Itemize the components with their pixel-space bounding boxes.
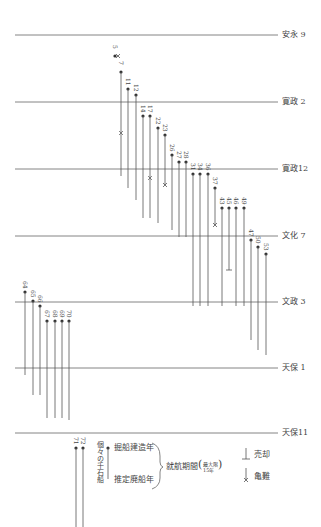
ship-number-label: 64 xyxy=(22,281,28,289)
ship-line-72 xyxy=(81,446,84,527)
era-label: 天保 1 xyxy=(282,363,306,373)
ship-number-label: 45 xyxy=(226,197,232,205)
ship-number-label: 43 xyxy=(219,197,225,205)
ship-timeline-diagram xyxy=(0,0,321,527)
ship-number-label: 31 xyxy=(190,163,196,171)
legend-period: 就航期間 xyxy=(166,462,198,472)
era-label: 文化 7 xyxy=(282,231,306,241)
ship-number-label: 22 xyxy=(155,117,161,125)
ship-number-label: 28 xyxy=(183,151,189,159)
ship-line-70 xyxy=(67,319,70,420)
ship-line-31 xyxy=(191,172,194,306)
ship-number-label: 46 xyxy=(233,197,239,205)
ship-line-36 xyxy=(206,172,209,306)
legend-build-year: 掘船建造年 xyxy=(114,443,154,453)
build-dot-icon xyxy=(113,54,116,57)
ship-line-50 xyxy=(256,245,259,350)
legend-max-line2: 15年 xyxy=(203,467,214,473)
ship-line-34 xyxy=(198,172,201,306)
ship-line-26 xyxy=(170,153,173,230)
ship-number-label: 53 xyxy=(263,243,269,251)
legend-scrap-year: 推定廃船年 xyxy=(114,475,154,485)
ship-line-67 xyxy=(45,319,48,418)
ship-number-label: 72 xyxy=(80,437,86,445)
legend-ship-label: 個々の千石船 xyxy=(96,441,104,483)
ship-number-label: 12 xyxy=(133,84,139,92)
ship-line-17 xyxy=(148,114,152,218)
ship-line-23 xyxy=(163,133,167,187)
era-lines xyxy=(15,35,278,433)
ship-line-68 xyxy=(53,319,56,418)
ship-number-label: 34 xyxy=(197,163,203,171)
ship-number-label: 11 xyxy=(125,78,131,86)
legend-paren-open: ( xyxy=(198,460,202,470)
ship-number-label: 65 xyxy=(30,290,36,298)
ship-number-label: 68 xyxy=(52,310,58,318)
legend-sold: 売却 xyxy=(254,450,270,460)
ship-line-37 xyxy=(213,186,217,227)
ship-line-69 xyxy=(60,319,63,418)
ship-number-label: 67 xyxy=(44,310,50,318)
ship-line-65 xyxy=(31,299,34,395)
ship-line-47 xyxy=(249,238,252,340)
ship-number-label: 37 xyxy=(212,177,218,185)
ship-number-label: 26 xyxy=(169,144,175,152)
ship-number-label: 23 xyxy=(162,124,168,132)
ship-line-27 xyxy=(177,160,180,237)
ship-line-22 xyxy=(156,126,159,223)
ship-lines xyxy=(23,54,267,527)
ship-number-label: 50 xyxy=(255,236,261,244)
ship-number-label: 71 xyxy=(73,437,79,445)
era-label: 寛政12 xyxy=(282,164,308,174)
ship-line-49 xyxy=(242,206,245,306)
ship-line-12 xyxy=(134,93,137,200)
ship-line-66 xyxy=(38,304,41,395)
ship-number-label: 69 xyxy=(59,310,65,318)
legend-wreck: 亀難 xyxy=(254,472,270,482)
ship-line-28 xyxy=(184,160,187,237)
ship-number-label: 66 xyxy=(37,295,43,303)
era-label: 文政 3 xyxy=(282,297,306,307)
ship-number-label: 14 xyxy=(140,105,146,113)
ship-number-label: 5 xyxy=(112,45,118,49)
legend-paren-close: ) xyxy=(218,460,222,470)
era-label: 安永 9 xyxy=(282,30,306,40)
ship-line-43 xyxy=(220,206,223,306)
ship-line-64 xyxy=(23,290,26,375)
ship-number-label: 36 xyxy=(205,163,211,171)
ship-line-14 xyxy=(141,114,144,218)
ship-number-label: 49 xyxy=(241,197,247,205)
ship-line-7 xyxy=(119,70,123,176)
ship-line-46 xyxy=(234,206,237,306)
ship-line-45 xyxy=(226,206,232,270)
ship-number-label: 17 xyxy=(147,105,153,113)
era-label: 寛政 2 xyxy=(282,97,306,107)
era-label: 天保11 xyxy=(282,428,308,438)
ship-line-53 xyxy=(264,252,267,355)
ship-line-71 xyxy=(74,446,77,527)
ship-line-11 xyxy=(126,87,129,188)
ship-number-label: 47 xyxy=(248,229,254,237)
ship-number-label: 70 xyxy=(66,310,72,318)
ship-number-label: 27 xyxy=(176,151,182,159)
ship-number-label: 7 xyxy=(118,61,124,65)
ship-line-5 xyxy=(113,54,120,58)
